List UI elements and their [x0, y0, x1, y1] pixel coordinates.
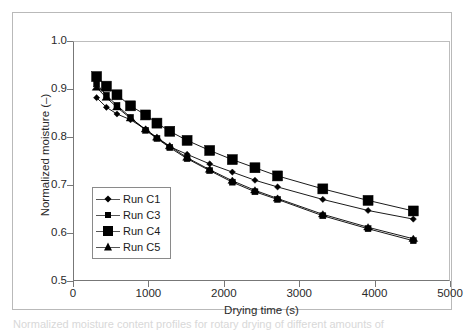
legend-marker-icon: [95, 224, 121, 238]
series-data-point: [112, 90, 122, 100]
series-data-point: [182, 135, 192, 145]
series-data-point: [273, 171, 283, 181]
legend-item-run-c5[interactable]: Run C5: [95, 239, 168, 255]
legend-marker-icon: [95, 192, 121, 206]
legend-label: Run C5: [121, 241, 160, 253]
y-axis-tick: [67, 41, 73, 42]
series-data-point: [363, 195, 373, 205]
series-data-point: [165, 126, 175, 136]
series-data-point: [114, 111, 120, 117]
x-axis-tick-label: 1000: [118, 287, 178, 299]
y-axis-tick: [67, 233, 73, 234]
figure-caption: Normalized moisture content profiles for…: [13, 318, 453, 330]
legend-marker-square-small-icon: [105, 212, 111, 218]
legend-marker-triangle-icon: [104, 243, 112, 251]
series-data-point: [101, 81, 111, 91]
series-data-point: [250, 163, 260, 173]
legend-item-run-c3[interactable]: Run C3: [95, 207, 168, 223]
figure-container: 0.50.60.70.80.91.0 Run C1Run C3Run C4Run…: [0, 0, 465, 331]
y-axis-tick-label: 1.0: [21, 35, 67, 46]
series-data-point: [141, 110, 151, 120]
y-axis-tick: [67, 89, 73, 90]
legend-item-run-c4[interactable]: Run C4: [95, 223, 168, 239]
series-data-point: [408, 206, 418, 216]
x-axis-tick-label: 2000: [194, 287, 254, 299]
legend-marker-diamond-icon: [104, 195, 111, 202]
x-axis-title: Drying time (s): [73, 304, 450, 316]
y-axis-tick: [67, 137, 73, 138]
series-data-point: [274, 184, 280, 190]
figure-frame: 0.50.60.70.80.91.0 Run C1Run C3Run C4Run…: [12, 12, 452, 310]
series-data-point: [410, 216, 416, 222]
legend-label: Run C4: [121, 225, 160, 237]
y-axis-title: Normalized moisture (–): [39, 55, 51, 255]
chart-legend: Run C1Run C3Run C4Run C5: [92, 187, 171, 259]
series-data-point: [229, 169, 235, 175]
y-axis-tick-label: 0.5: [21, 275, 67, 286]
x-axis-tick-label: 5000: [420, 287, 465, 299]
legend-marker-square-large-icon: [103, 226, 113, 236]
legend-label: Run C3: [121, 209, 160, 221]
x-axis-tick-label: 3000: [269, 287, 329, 299]
y-axis-tick: [67, 185, 73, 186]
x-axis-tick-label: 4000: [345, 287, 405, 299]
legend-item-run-c1[interactable]: Run C1: [95, 191, 168, 207]
series-data-point: [318, 184, 328, 194]
series-data-point: [152, 118, 162, 128]
series-data-point: [126, 101, 136, 111]
x-axis-tick-label: 0: [43, 287, 103, 299]
series-data-point: [252, 177, 258, 183]
series-data-point: [227, 155, 237, 165]
legend-label: Run C1: [121, 193, 160, 205]
series-data-point: [205, 145, 215, 155]
series-data-point: [320, 196, 326, 202]
series-data-point: [92, 72, 102, 82]
legend-marker-icon: [95, 240, 121, 254]
series-data-point: [365, 207, 371, 213]
legend-marker-icon: [95, 208, 121, 222]
